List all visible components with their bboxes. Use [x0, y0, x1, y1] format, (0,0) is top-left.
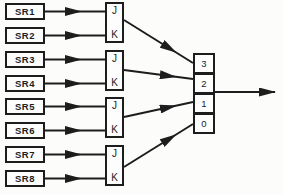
sr5-label: SR5	[15, 101, 35, 112]
shift-register-box-sr5: SR5	[5, 98, 45, 115]
ff2-j-input-label: J	[107, 54, 122, 64]
jk-flipflop-shift-register-diagram: SR1 SR2 SR3 SR4 SR5 SR6 SR7 SR8 J K J K …	[0, 0, 283, 195]
ff1-j-input-label: J	[107, 6, 122, 16]
sr2-label: SR2	[15, 30, 35, 41]
ff4-k-input-label: K	[107, 173, 122, 183]
bit2-label: 2	[201, 78, 206, 89]
sr1-label: SR1	[15, 6, 35, 17]
shift-register-box-sr7: SR7	[5, 146, 45, 163]
ff2-to-bit2-wire	[124, 70, 193, 79]
sr8-label: SR8	[15, 173, 35, 184]
jk-flipflop-3: J K	[105, 97, 124, 138]
sr6-label: SR6	[15, 125, 35, 136]
output-bit-cell-3: 3	[193, 53, 215, 74]
shift-register-box-sr4: SR4	[5, 75, 45, 92]
ff4-j-input-label: J	[107, 149, 122, 159]
sr4-label: SR4	[15, 78, 35, 89]
jk-flipflop-2: J K	[105, 50, 124, 91]
bit1-label: 1	[201, 98, 206, 109]
output-bit-cell-0: 0	[193, 113, 215, 134]
ff2-k-input-label: K	[107, 78, 122, 88]
bit3-label: 3	[201, 58, 206, 69]
sr3-label: SR3	[15, 54, 35, 65]
ff4-to-bit0-wire	[124, 124, 193, 167]
shift-register-box-sr6: SR6	[5, 122, 45, 139]
jk-flipflop-4: J K	[105, 145, 124, 186]
shift-register-box-sr1: SR1	[5, 3, 45, 20]
output-bit-cell-2: 2	[193, 73, 215, 94]
ff3-k-input-label: K	[107, 125, 122, 135]
sr7-label: SR7	[15, 149, 35, 160]
ff3-to-bit1-wire	[124, 102, 193, 117]
shift-register-box-sr3: SR3	[5, 51, 45, 68]
ff1-to-bit3-wire	[124, 20, 193, 63]
bit0-label: 0	[201, 118, 206, 129]
ff3-j-input-label: J	[107, 101, 122, 111]
jk-flipflop-1: J K	[105, 2, 124, 43]
shift-register-box-sr2: SR2	[5, 27, 45, 44]
shift-register-box-sr8: SR8	[5, 170, 45, 187]
output-bit-cell-1: 1	[193, 93, 215, 114]
ff1-k-input-label: K	[107, 30, 122, 40]
